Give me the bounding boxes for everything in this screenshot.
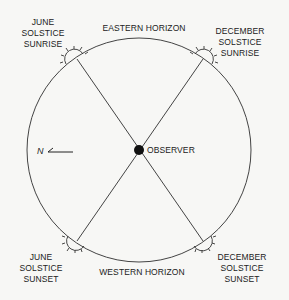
observer-dot	[134, 145, 144, 155]
label-line: SUNSET	[212, 274, 272, 285]
label-june-solstice-sunset: JUNE SOLSTICE SUNSET	[16, 252, 66, 285]
western-horizon-label: WESTERN HORIZON	[92, 267, 192, 278]
label-line: JUNE	[18, 17, 68, 28]
north-label: N	[37, 146, 44, 157]
eastern-horizon-label: EASTERN HORIZON	[96, 23, 192, 34]
sun-icon-december-sunset	[194, 236, 216, 253]
north-arrow-icon	[48, 148, 73, 152]
label-line: DECEMBER	[210, 26, 270, 37]
label-line: SOLSTICE	[210, 37, 270, 48]
label-december-solstice-sunrise: DECEMBER SOLSTICE SUNRISE	[210, 26, 270, 59]
observer-label: OBSERVER	[147, 145, 195, 156]
label-line: SOLSTICE	[18, 28, 68, 39]
label-line: DECEMBER	[212, 252, 272, 263]
label-line: SUNRISE	[18, 39, 68, 50]
label-december-solstice-sunset: DECEMBER SOLSTICE SUNSET	[212, 252, 272, 285]
label-line: SUNSET	[16, 274, 66, 285]
label-june-solstice-sunrise: JUNE SOLSTICE SUNRISE	[18, 17, 68, 50]
label-line: SOLSTICE	[16, 263, 66, 274]
label-line: SOLSTICE	[212, 263, 272, 274]
label-line: SUNRISE	[210, 48, 270, 59]
label-line: JUNE	[16, 252, 66, 263]
sun-icon-june-sunset	[62, 236, 84, 253]
